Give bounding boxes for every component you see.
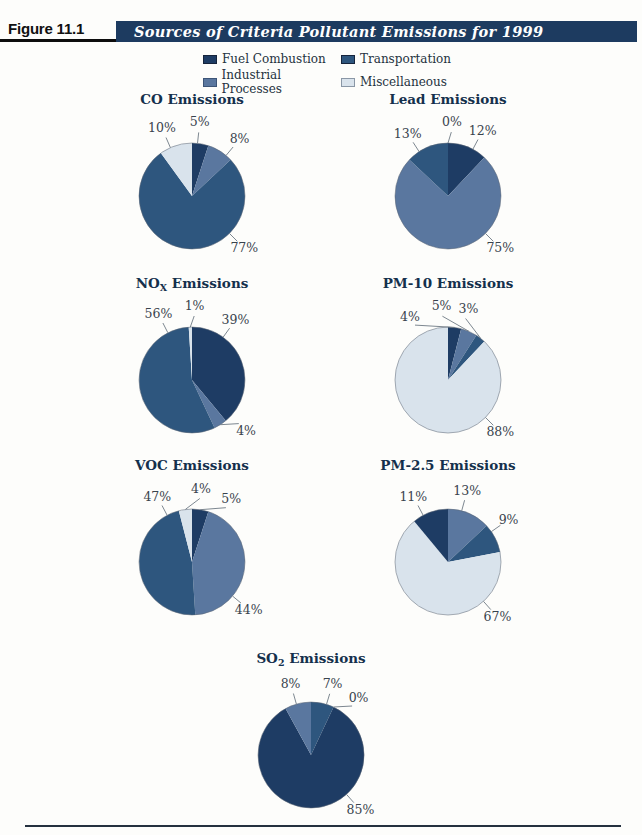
chart-nox-emissions: NOX Emissions39%4%56%1% (60, 268, 324, 460)
pie-percent-label: 10% (148, 120, 176, 135)
pie-percent-label: 85% (347, 802, 375, 817)
pie-slice-miscellaneous (395, 327, 501, 433)
pie-label-line (327, 694, 330, 705)
pie-label-line (413, 142, 419, 151)
chart-voc-emissions: VOC Emissions5%44%47%4% (60, 450, 324, 642)
chart-co-emissions: CO Emissions5%8%77%10% (60, 84, 324, 276)
pie-label-line (462, 500, 465, 511)
pie-percent-label: 4% (236, 423, 256, 438)
pie-percent-label: 5% (221, 491, 241, 506)
pie-percent-label: 3% (458, 301, 478, 316)
pie-label-line (163, 323, 168, 333)
pie-percent-label: 67% (484, 609, 512, 624)
bottom-rule (25, 825, 621, 827)
chart-title: VOC Emissions (134, 457, 249, 473)
page: Figure 11.1 Sources of Criteria Pollutan… (0, 0, 642, 835)
chart-title: PM-2.5 Emissions (380, 457, 516, 473)
pie-percent-label: 0% (442, 114, 462, 129)
pie-label-line (223, 328, 229, 337)
pie-percent-label: 8% (230, 131, 250, 146)
pie-percent-label: 7% (323, 676, 343, 691)
pie-percent-label: 13% (394, 126, 422, 141)
pie-percent-label: 5% (190, 114, 210, 129)
chart-lead-emissions: Lead Emissions12%75%13%0% (316, 84, 580, 276)
pie-percent-label: 75% (486, 240, 514, 255)
pie-percent-label: 88% (486, 424, 514, 439)
pie-percent-label: 44% (235, 602, 263, 617)
pie-label-line (226, 147, 233, 155)
pie-label-line (185, 499, 199, 510)
chart-pm-10-emissions: PM-10 Emissions4%5%3%88% (316, 268, 580, 460)
pie-percent-label: 4% (400, 309, 420, 324)
pie-percent-label: 4% (191, 481, 211, 496)
pie-percent-label: 0% (349, 690, 369, 705)
chart-title: CO Emissions (140, 91, 244, 107)
pie-percent-label: 11% (399, 489, 427, 504)
pie-percent-label: 56% (145, 306, 173, 321)
chart-title: Lead Emissions (389, 91, 507, 107)
chart-so2-emissions: SO2 Emissions7%0%85%8% (179, 643, 443, 835)
pie-label-line (166, 138, 170, 148)
chart-pm-2-5-emissions: PM-2.5 Emissions13%9%67%11% (316, 450, 580, 642)
pie-percent-label: 77% (230, 240, 258, 255)
pie-percent-label: 39% (222, 312, 250, 327)
pie-label-line (293, 694, 296, 705)
pie-percent-label: 13% (453, 483, 481, 498)
charts-area: CO Emissions5%8%77%10%Lead Emissions12%7… (0, 0, 642, 835)
pie-percent-label: 9% (499, 512, 519, 527)
pie-label-line (334, 706, 353, 707)
pie-label-line (162, 506, 167, 516)
pie-label-line (448, 132, 451, 143)
chart-title: NOX Emissions (136, 275, 249, 293)
pie-label-line (418, 506, 423, 516)
pie-percent-label: 8% (281, 676, 301, 691)
chart-title: SO2 Emissions (256, 650, 366, 668)
pie-label-line (415, 325, 455, 327)
pie-percent-label: 12% (469, 123, 497, 138)
pie-label-line (473, 140, 478, 150)
pie-percent-label: 47% (143, 489, 171, 504)
pie-percent-label: 1% (185, 298, 205, 313)
pie-percent-label: 5% (432, 298, 452, 313)
chart-title: PM-10 Emissions (383, 275, 514, 291)
pie-label-line (198, 132, 199, 143)
pie-label-line (190, 316, 194, 327)
pie-label-line (200, 508, 226, 510)
